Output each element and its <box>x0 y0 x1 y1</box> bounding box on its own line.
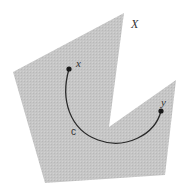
label-region-x: X <box>130 17 139 31</box>
diagram-canvas: X x y c <box>0 0 185 193</box>
label-curve-c: c <box>71 126 76 137</box>
point-y <box>158 108 163 113</box>
label-point-x: x <box>75 57 81 69</box>
point-x <box>66 66 71 71</box>
label-point-y: y <box>160 96 166 108</box>
region-x <box>13 13 176 183</box>
